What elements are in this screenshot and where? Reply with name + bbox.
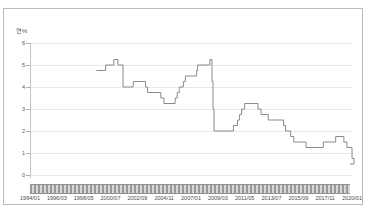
series-line-chart	[30, 40, 352, 178]
y-tick-label-5: 5	[22, 62, 25, 68]
y-tick-label-4: 4	[22, 84, 25, 90]
x-tick-label-10: 2015/09	[288, 195, 308, 201]
x-tick-label-0: 1994/01	[20, 195, 40, 201]
x-tick-label-1: 1996/03	[47, 195, 67, 201]
series-line-path	[96, 60, 354, 165]
x-tick-label-12: 2020/01	[342, 195, 362, 201]
plot-area: 6 5 4 3 2 1 0	[30, 40, 352, 178]
chart-frame: 연% 6 5 4 3 2 1 0 1994/011996/031998/0520…	[3, 8, 363, 205]
y-tick-label-6: 6	[22, 40, 25, 46]
x-tick-label-2: 1998/05	[74, 195, 94, 201]
x-tick-label-4: 2002/09	[127, 195, 147, 201]
x-axis-labels: 1994/011996/031998/052000/072002/092004/…	[12, 195, 364, 207]
y-tick-label-3: 3	[22, 106, 25, 112]
x-tick-label-9: 2013/07	[262, 195, 282, 201]
y-tick-label-2: 2	[22, 128, 25, 134]
y-axis-unit-label: 연%	[16, 26, 27, 35]
horizontal-scrollbar[interactable]	[30, 184, 350, 194]
x-tick-label-3: 2000/07	[101, 195, 121, 201]
x-tick-label-11: 2017/11	[315, 195, 334, 201]
y-tick-label-1: 1	[22, 150, 25, 156]
x-tick-label-5: 2004/11	[154, 195, 173, 201]
x-tick-label-8: 2011/05	[235, 195, 254, 201]
x-tick-label-6: 2007/01	[181, 195, 201, 201]
x-tick-label-7: 2009/03	[208, 195, 228, 201]
y-tick-label-0: 0	[22, 172, 25, 178]
